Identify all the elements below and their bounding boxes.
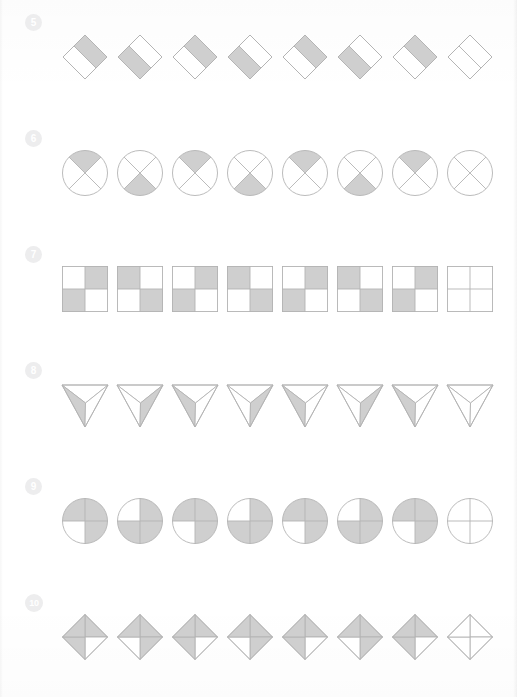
answer-shape-slot[interactable] [442, 605, 497, 669]
pattern-shape [222, 141, 277, 205]
row-number-badge: 5 [25, 14, 42, 31]
pattern-shape [167, 257, 222, 321]
pattern-shape [332, 605, 387, 669]
answer-shape-slot[interactable] [442, 489, 497, 553]
row-number-badge: 10 [25, 594, 43, 612]
pattern-shape [167, 489, 222, 553]
pattern-shape [167, 25, 222, 89]
pattern-shape [387, 373, 442, 437]
pattern-shape [387, 489, 442, 553]
answer-shape-slot[interactable] [442, 257, 497, 321]
pattern-shape [57, 257, 112, 321]
pattern-shape [332, 373, 387, 437]
shape-sequence-strip [57, 138, 497, 208]
pattern-shape [112, 373, 167, 437]
pattern-shape [277, 141, 332, 205]
pattern-shape [332, 489, 387, 553]
puzzle-row: 5 [0, 0, 517, 116]
pattern-shape [57, 141, 112, 205]
worksheet-page: 5678910 [0, 0, 517, 697]
shape-sequence-strip [57, 486, 497, 556]
pattern-shape [57, 489, 112, 553]
pattern-shape [57, 373, 112, 437]
pattern-shape [57, 25, 112, 89]
puzzle-row: 10 [0, 580, 517, 696]
pattern-shape [332, 25, 387, 89]
answer-shape-slot[interactable] [442, 373, 497, 437]
pattern-shape [277, 373, 332, 437]
pattern-shape [222, 605, 277, 669]
pattern-shape [112, 489, 167, 553]
pattern-shape [112, 25, 167, 89]
row-number-badge: 7 [25, 246, 42, 263]
pattern-shape [277, 257, 332, 321]
row-number-badge: 8 [25, 362, 42, 379]
pattern-shape [332, 257, 387, 321]
pattern-shape [277, 25, 332, 89]
pattern-shape [387, 25, 442, 89]
pattern-shape [167, 373, 222, 437]
pattern-shape [112, 605, 167, 669]
answer-shape-slot[interactable] [442, 25, 497, 89]
row-number-badge: 6 [25, 130, 42, 147]
puzzle-row: 8 [0, 348, 517, 464]
shape-sequence-strip [57, 22, 497, 92]
shape-sequence-strip [57, 254, 497, 324]
pattern-shape [277, 605, 332, 669]
pattern-shape [222, 257, 277, 321]
puzzle-row: 9 [0, 464, 517, 580]
puzzle-row: 6 [0, 116, 517, 232]
pattern-shape [222, 489, 277, 553]
puzzle-row: 7 [0, 232, 517, 348]
pattern-shape [222, 373, 277, 437]
pattern-shape [57, 605, 112, 669]
pattern-shape [277, 489, 332, 553]
pattern-shape [387, 605, 442, 669]
pattern-shape [222, 25, 277, 89]
pattern-shape [387, 141, 442, 205]
pattern-shape [387, 257, 442, 321]
pattern-shape [167, 141, 222, 205]
answer-shape-slot[interactable] [442, 141, 497, 205]
pattern-shape [167, 605, 222, 669]
shape-sequence-strip [57, 602, 497, 672]
pattern-shape [112, 257, 167, 321]
row-number-badge: 9 [25, 478, 42, 495]
pattern-shape [332, 141, 387, 205]
shape-sequence-strip [57, 370, 497, 440]
pattern-shape [112, 141, 167, 205]
puzzle-rows-container: 5678910 [0, 0, 517, 696]
